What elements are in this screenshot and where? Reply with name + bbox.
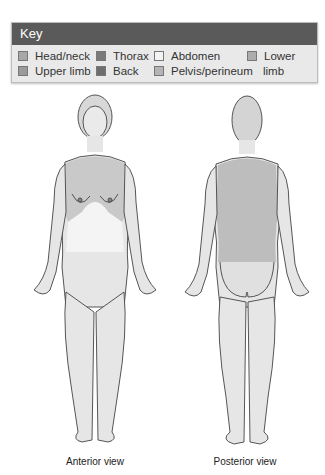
posterior-figure — [172, 92, 322, 452]
key-label: Lower — [264, 50, 295, 62]
key-label: Head/neck — [35, 50, 90, 62]
key-label: Upper limb — [35, 65, 91, 77]
key-title: Key — [12, 23, 317, 45]
anterior-caption: Anterior view — [35, 456, 155, 467]
swatch-pelvis-perineum — [154, 66, 164, 76]
swatch-thorax — [96, 51, 106, 61]
key-item-back: Back — [96, 65, 139, 77]
key-label: Pelvis/perineum — [171, 65, 253, 77]
key-legend: Key Head/neck Upper limb Thorax Back Abd… — [11, 22, 318, 83]
swatch-back — [96, 66, 106, 76]
key-label: Abdomen — [171, 50, 220, 62]
posterior-caption: Posterior view — [185, 456, 305, 467]
key-label: Back — [113, 65, 139, 77]
swatch-upper-limb — [18, 66, 28, 76]
head-back — [232, 96, 262, 144]
key-item-head-neck: Head/neck — [18, 50, 90, 62]
key-label: limb — [263, 65, 284, 77]
key-item-upper-limb: Upper limb — [18, 65, 91, 77]
anterior-figure — [20, 92, 170, 452]
swatch-head-neck — [18, 51, 28, 61]
swatch-abdomen — [154, 51, 164, 61]
key-item-lower-limb: Lower — [247, 50, 295, 62]
swatch-lower-limb — [247, 51, 257, 61]
key-item-abdomen: Abdomen — [154, 50, 220, 62]
key-item-lower-limb-cont: limb — [263, 65, 284, 77]
key-item-pelvis-perineum: Pelvis/perineum — [154, 65, 253, 77]
key-item-thorax: Thorax — [96, 50, 149, 62]
key-grid: Head/neck Upper limb Thorax Back Abdomen… — [12, 45, 317, 82]
key-label: Thorax — [113, 50, 149, 62]
